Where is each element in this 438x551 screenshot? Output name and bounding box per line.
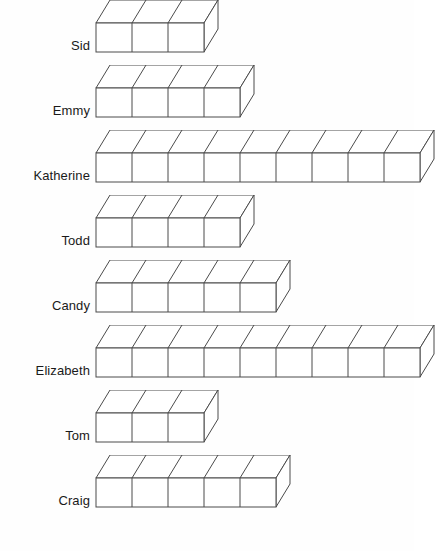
cuboid-top-face bbox=[96, 130, 434, 153]
cuboid-front-face bbox=[96, 153, 420, 182]
row-label-candy: Candy bbox=[0, 298, 90, 313]
cube-row: Todd bbox=[0, 195, 414, 260]
cuboid-top-face bbox=[96, 260, 290, 283]
cube-row: Tom bbox=[0, 390, 414, 455]
cuboid-front-face bbox=[96, 283, 276, 312]
cube-row-graphic bbox=[90, 0, 222, 58]
cube-row: Sid bbox=[0, 0, 414, 65]
row-label-tom: Tom bbox=[0, 428, 90, 443]
cube-row: Candy bbox=[0, 260, 414, 325]
row-label-sid: Sid bbox=[0, 38, 90, 53]
cube-row: Emmy bbox=[0, 65, 414, 130]
cuboid-top-face bbox=[96, 325, 434, 348]
cube-row: Craig bbox=[0, 455, 414, 520]
cube-row-graphic bbox=[90, 390, 222, 448]
cuboid-front-face bbox=[96, 348, 420, 377]
cuboid-front-face bbox=[96, 478, 276, 507]
cube-row-graphic bbox=[90, 195, 258, 253]
cuboid-front-face bbox=[96, 23, 204, 52]
cube-row-graphic bbox=[90, 130, 438, 188]
cuboid-top-face bbox=[96, 455, 290, 478]
row-label-katherine: Katherine bbox=[0, 168, 90, 183]
cube-row: Katherine bbox=[0, 130, 414, 195]
row-label-craig: Craig bbox=[0, 493, 90, 508]
cube-row-graphic bbox=[90, 325, 438, 383]
cuboid-front-face bbox=[96, 413, 204, 442]
cube-row-graphic bbox=[90, 260, 294, 318]
cube-row: Elizabeth bbox=[0, 325, 414, 390]
row-label-emmy: Emmy bbox=[0, 103, 90, 118]
cuboid-top-face bbox=[96, 390, 218, 413]
cube-row-graphic bbox=[90, 455, 294, 513]
row-label-todd: Todd bbox=[0, 233, 90, 248]
cube-row-graphic bbox=[90, 65, 258, 123]
row-label-elizabeth: Elizabeth bbox=[0, 363, 90, 378]
cuboid-top-face bbox=[96, 0, 218, 23]
